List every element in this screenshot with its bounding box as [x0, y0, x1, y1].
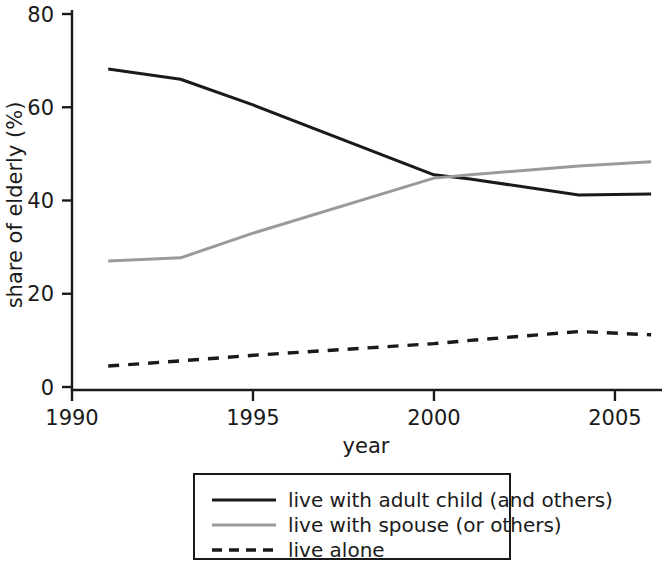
- x-axis-title: year: [343, 434, 390, 458]
- y-tick-label: 80: [27, 3, 54, 27]
- x-tick-label: 2005: [588, 406, 641, 430]
- legend-label: live with adult child (and others): [288, 488, 613, 512]
- x-tick-label: 2000: [407, 406, 460, 430]
- y-axis-title: share of elderly (%): [3, 102, 27, 309]
- y-tick-label: 40: [27, 189, 54, 213]
- y-tick-label: 0: [41, 376, 54, 400]
- x-tick-label: 1990: [45, 406, 98, 430]
- chart-figure: 020406080 1990199520002005 year share of…: [0, 0, 665, 565]
- legend-label: live alone: [288, 538, 385, 562]
- y-tick-label: 20: [27, 282, 54, 306]
- legend-label: live with spouse (or others): [288, 513, 562, 537]
- y-tick-label: 60: [27, 96, 54, 120]
- x-tick-label: 1995: [226, 406, 279, 430]
- line-chart: 020406080 1990199520002005 year share of…: [0, 0, 665, 565]
